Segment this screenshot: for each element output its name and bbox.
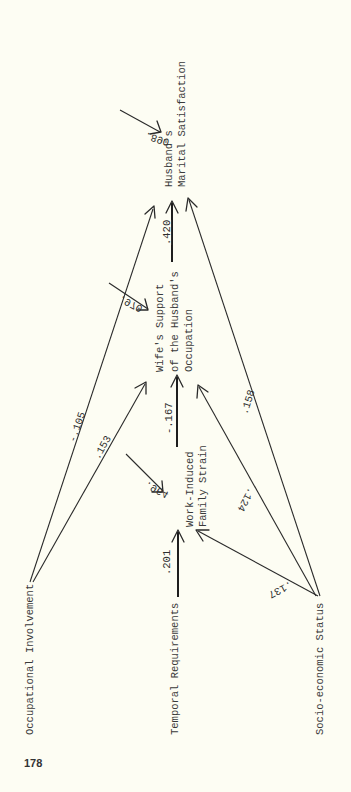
coef-ses-to-support: .124 bbox=[235, 486, 257, 514]
coef-strain-to-support: -.167 bbox=[163, 402, 175, 434]
coef-ses-to-satisfaction: .158 bbox=[238, 388, 257, 416]
node-socioeconomic-status: Socio-economic Status bbox=[314, 603, 326, 735]
path-occinv-to-satisfaction bbox=[30, 206, 155, 582]
coef-occinv-to-satisfaction: -.105 bbox=[66, 410, 88, 444]
path-ses-to-strain bbox=[196, 530, 318, 596]
coef-residual-strain: .964 bbox=[143, 478, 171, 500]
coef-ses-to-strain: .137 bbox=[266, 578, 294, 600]
svg-text:Family Strain: Family Strain bbox=[197, 445, 209, 527]
node-temporal-requirements: Temporal Requirements bbox=[169, 603, 181, 735]
svg-text:Work-Induced: Work-Induced bbox=[184, 451, 196, 527]
coef-temporal-to-strain: .201 bbox=[161, 550, 173, 575]
node-work-induced-family-strain: Work-Induced Family Strain bbox=[184, 445, 209, 527]
svg-text:Marital Satisfaction: Marital Satisfaction bbox=[176, 61, 188, 187]
svg-text:of the Husband's: of the Husband's bbox=[169, 271, 181, 372]
coef-residual-support: .970 bbox=[117, 292, 145, 314]
node-occupational-involvement: Occupational Involvement bbox=[24, 584, 36, 735]
coef-occinv-to-support: .153 bbox=[91, 434, 114, 462]
node-husbands-marital-satisfaction: Husband's Marital Satisfaction bbox=[163, 61, 188, 187]
path-temporal-to-strain bbox=[172, 530, 184, 597]
path-diagram: Occupational Involvement Temporal Requir… bbox=[0, 0, 351, 792]
residual-satisfaction bbox=[120, 110, 161, 134]
coef-support-to-satisfaction: .420 bbox=[161, 220, 173, 245]
node-wifes-support: Wife's Support of the Husband's Occupati… bbox=[154, 271, 195, 372]
path-occinv-to-support bbox=[33, 382, 146, 582]
svg-text:Occupation: Occupation bbox=[183, 309, 195, 372]
page-number: 178 bbox=[24, 757, 42, 769]
svg-text:Wife's Support: Wife's Support bbox=[154, 284, 166, 372]
